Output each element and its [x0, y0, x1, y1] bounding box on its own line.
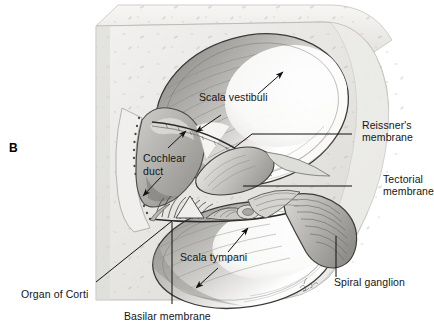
label-cochlear-duct-line2: duct: [143, 166, 163, 178]
label-scala-vestibuli: Scala vestibuli: [199, 92, 268, 104]
label-basilar-membrane: Basilar membrane: [124, 311, 211, 323]
panel-letter: B: [9, 141, 18, 155]
label-reissners-membrane-line2: membrane: [362, 132, 413, 144]
label-tectorial-membrane-line2: membrane: [383, 186, 434, 198]
label-spiral-ganglion: Spiral ganglion: [334, 277, 405, 289]
label-scala-tympani: Scala tympani: [180, 252, 247, 264]
label-cochlear-duct-line1: Cochlear: [143, 153, 186, 165]
label-organ-of-corti: Organ of Corti: [21, 289, 88, 301]
label-tectorial-membrane-line1: Tectorial: [383, 174, 423, 186]
label-reissners-membrane-line1: Reissner's: [362, 120, 412, 132]
